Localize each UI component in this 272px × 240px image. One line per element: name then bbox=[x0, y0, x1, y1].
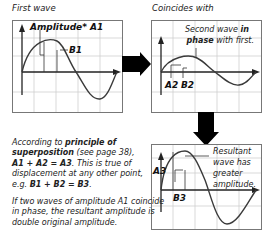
second-wave-note-line2: phase with first. bbox=[186, 36, 254, 45]
second-wave-graph: Second wave in phase with first. A2 B2 bbox=[151, 20, 263, 114]
right-arrow-icon bbox=[122, 52, 152, 76]
explanation-line-3: A1 + A2 = A3. This is true of bbox=[12, 159, 152, 169]
b1-label: B1 bbox=[69, 45, 82, 55]
note-line-1: If two waves of amplitude A1 coincide bbox=[12, 197, 182, 207]
a2-label: A2 bbox=[164, 80, 178, 90]
resultant-note-line4: amplitude. bbox=[213, 180, 256, 189]
caption-coincides-with: Coincides with bbox=[152, 3, 214, 13]
down-arrow-icon bbox=[193, 112, 219, 146]
amplitude-a1-label: Amplitude* A1 bbox=[29, 22, 103, 32]
a3-label: A3 bbox=[152, 166, 166, 176]
b2-label: B2 bbox=[181, 80, 194, 90]
second-wave-note-line1: Second wave in bbox=[185, 25, 249, 34]
resultant-note-line3: greater bbox=[213, 169, 243, 178]
double-amplitude-note: If two waves of amplitude A1 coincide in… bbox=[12, 197, 182, 228]
resultant-note-line2: wave has bbox=[213, 158, 251, 167]
explanation-line-1: According to principle of bbox=[12, 138, 152, 148]
explanation-line-5: e.g. B1 + B2 = B3. bbox=[12, 180, 152, 190]
explanation-line-2: superposition (see page 38), bbox=[12, 148, 152, 158]
superposition-explanation: According to principle of superposition … bbox=[12, 138, 152, 190]
caption-first-wave: First wave bbox=[12, 3, 56, 13]
first-wave-graph: Amplitude* A1 B1 bbox=[12, 20, 124, 114]
note-line-3: double original amplitude. bbox=[12, 218, 182, 228]
resultant-note-line1: Resultant bbox=[213, 147, 252, 156]
explanation-line-4: displacement at any other point, bbox=[12, 169, 152, 179]
note-line-2: in phase, the resultant amplitude is bbox=[12, 207, 182, 217]
